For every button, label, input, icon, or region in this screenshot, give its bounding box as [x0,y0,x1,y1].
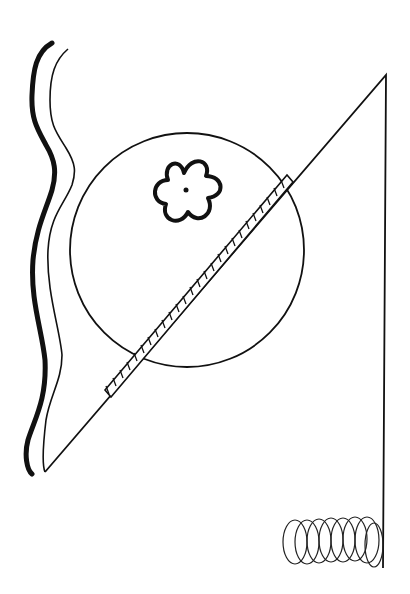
line-drawing [0,0,410,594]
coil-spring [283,517,383,567]
triangle [45,75,386,568]
flower [155,161,221,221]
